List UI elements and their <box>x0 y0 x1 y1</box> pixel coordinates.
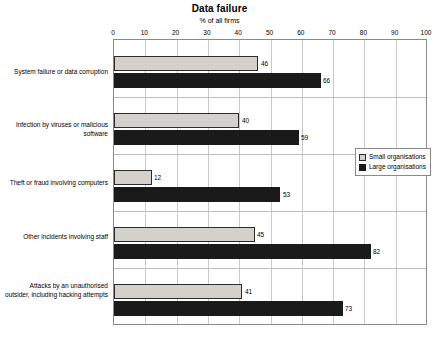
x-tick-20: 20 <box>166 29 186 36</box>
x-tick-70: 70 <box>322 29 342 36</box>
x-tick-100: 100 <box>416 29 436 36</box>
legend-label-small: Small organisations <box>369 152 426 162</box>
gridline-80 <box>364 40 365 324</box>
x-tick-90: 90 <box>385 29 405 36</box>
bar-value-small-5: 41 <box>245 284 252 299</box>
bar-small-1 <box>114 56 258 71</box>
bar-value-large-3: 53 <box>283 187 290 202</box>
legend-swatch-icon-large <box>359 164 366 171</box>
bar-large-5 <box>114 301 343 316</box>
bar-small-2 <box>114 113 239 128</box>
x-tick-40: 40 <box>228 29 248 36</box>
bar-value-small-3: 12 <box>154 170 161 185</box>
chart-title: Data failure <box>0 3 439 14</box>
gridline-90 <box>396 40 397 324</box>
x-tick-30: 30 <box>197 29 217 36</box>
gridline-70 <box>333 40 334 324</box>
bar-value-large-1: 66 <box>323 73 330 88</box>
chart-container: Data failure % of all firms 0 10 20 30 4… <box>0 0 439 341</box>
bar-value-small-4: 45 <box>257 227 264 242</box>
legend-label-large: Large organisations <box>369 162 426 172</box>
x-tick-50: 50 <box>260 29 280 36</box>
x-tick-10: 10 <box>134 29 154 36</box>
category-separator-3 <box>114 211 426 212</box>
bar-small-3 <box>114 170 152 185</box>
category-label-1: System failure or data corruption <box>4 68 108 77</box>
bar-small-4 <box>114 227 255 242</box>
x-tick-60: 60 <box>291 29 311 36</box>
bar-value-large-2: 59 <box>301 130 308 145</box>
category-label-2: Infection by viruses or malicious softwa… <box>4 121 108 138</box>
chart-legend: Small organisations Large organisations <box>355 148 431 176</box>
bar-small-5 <box>114 284 242 299</box>
bar-large-2 <box>114 130 299 145</box>
bar-value-large-5: 73 <box>345 301 352 316</box>
chart-subtitle: % of all firms <box>0 17 439 24</box>
x-tick-0: 0 <box>103 29 123 36</box>
x-tick-80: 80 <box>353 29 373 36</box>
legend-swatch-icon-small <box>359 154 366 161</box>
category-separator-1 <box>114 97 426 98</box>
category-label-5: Attacks by an unauthorised outsider, inc… <box>4 282 108 299</box>
bar-value-small-1: 46 <box>261 56 268 71</box>
plot-area: 46 66 40 59 12 53 45 82 41 73 <box>113 39 427 325</box>
bar-value-small-2: 40 <box>242 113 249 128</box>
bar-large-4 <box>114 244 371 259</box>
category-label-4: Other incidents involving staff <box>4 233 108 242</box>
category-separator-4 <box>114 268 426 269</box>
legend-item-large-organisations: Large organisations <box>359 162 426 172</box>
legend-item-small-organisations: Small organisations <box>359 152 426 162</box>
bar-value-large-4: 82 <box>373 244 380 259</box>
bar-large-1 <box>114 73 321 88</box>
category-label-3: Theft or fraud involving computers <box>4 179 108 188</box>
bar-large-3 <box>114 187 280 202</box>
